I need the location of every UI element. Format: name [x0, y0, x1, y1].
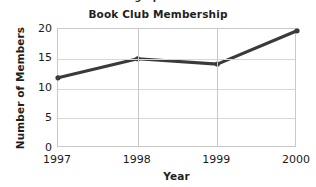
x-axis-tick-label: 1999: [188, 154, 244, 165]
data-point-marker: [294, 28, 299, 33]
plot-area: [57, 28, 296, 147]
x-axis-tick-label: 1998: [109, 154, 165, 165]
x-axis-tick-label: 1997: [29, 154, 85, 165]
gridline-vertical: [217, 29, 218, 146]
y-axis-tick-label: 10: [6, 82, 52, 93]
x-axis-title: Year: [57, 170, 296, 182]
y-axis-tick-label: 5: [6, 112, 52, 123]
gridline-horizontal: [58, 89, 295, 90]
x-axis-tick-label: 2000: [268, 154, 316, 165]
gridline-horizontal: [58, 118, 295, 119]
y-axis-tick-label: 20: [6, 23, 52, 34]
book-club-membership-chart: Use the graph to answer. Book Club Membe…: [0, 0, 316, 187]
y-axis-tick-label: 15: [6, 52, 52, 63]
gridline-horizontal: [58, 59, 295, 60]
series-polyline: [58, 31, 297, 78]
gridline-vertical: [138, 29, 139, 146]
y-axis-tick-label: 0: [6, 142, 52, 153]
data-point-marker: [55, 75, 60, 80]
